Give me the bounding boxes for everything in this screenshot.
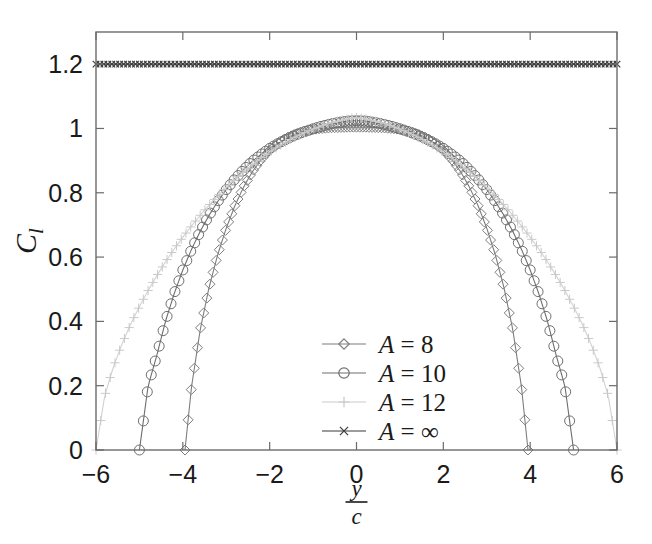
svg-text:c: c — [351, 504, 361, 529]
y-tick-label: 0.4 — [48, 307, 83, 335]
y-tick-label: 0.2 — [48, 372, 83, 400]
legend-label: A = 12 — [377, 389, 446, 416]
line-chart: −6−4−2024600.20.40.60.811.2 Clyc A = 8A … — [0, 0, 652, 544]
y-tick-label: 1 — [69, 114, 83, 142]
svg-text:y: y — [349, 476, 362, 501]
x-tick-label: −6 — [82, 460, 111, 488]
x-tick-label: 4 — [523, 460, 537, 488]
legend-label: A = 8 — [377, 331, 433, 358]
x-tick-label: −2 — [255, 460, 284, 488]
legend-label: A = ∞ — [377, 418, 439, 445]
y-tick-label: 0.6 — [48, 243, 83, 271]
y-tick-label: 0 — [69, 436, 83, 464]
y-tick-label: 0.8 — [48, 179, 83, 207]
x-tick-label: 2 — [436, 460, 450, 488]
x-tick-label: −4 — [169, 460, 198, 488]
x-tick-label: 6 — [610, 460, 624, 488]
figure-container: −6−4−2024600.20.40.60.811.2 Clyc A = 8A … — [0, 0, 652, 544]
legend-label: A = 10 — [377, 360, 446, 387]
y-tick-label: 1.2 — [48, 50, 83, 78]
